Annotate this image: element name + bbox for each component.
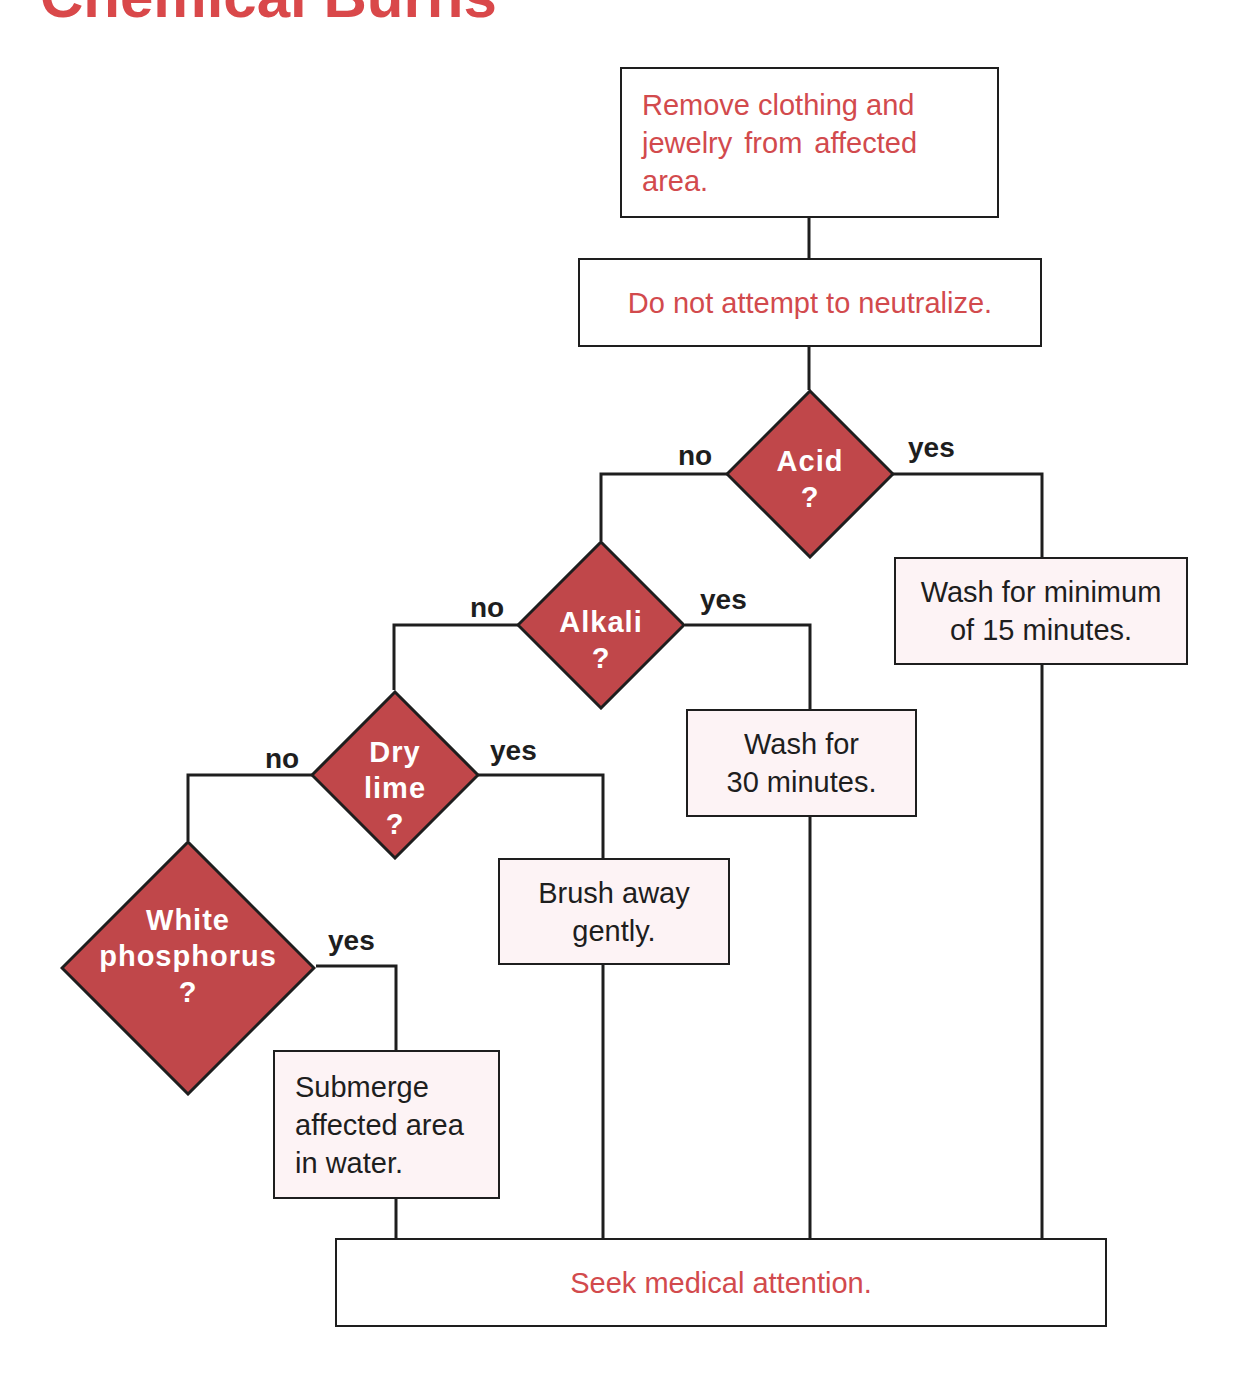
alkali-yes-label: yes [700, 584, 747, 616]
action-acid-line1: Wash for minimum [921, 573, 1162, 611]
step-remove-line2: jewelry from affected [642, 124, 917, 162]
acid-yes-label: yes [908, 432, 955, 464]
action-white-phosphorus-submerge: Submerge affected area in water. [273, 1050, 500, 1199]
action-alkali-line1: Wash for [727, 725, 877, 763]
action-wp-line3: in water. [295, 1144, 464, 1182]
action-acid-line2: of 15 minutes. [921, 611, 1162, 649]
decision-acid: Acid ? [725, 389, 895, 559]
decision-alkali-q: ? [516, 640, 686, 676]
action-wp-line1: Submerge [295, 1068, 464, 1106]
wp-yes-label: yes [328, 925, 375, 957]
step-seek-medical-attention: Seek medical attention. [335, 1238, 1107, 1327]
decision-alkali-label: Alkali [516, 604, 686, 640]
action-alkali-line2: 30 minutes. [727, 763, 877, 801]
decision-drylime-line2: lime [310, 770, 480, 806]
step-remove-line1: Remove clothing and [642, 86, 917, 124]
decision-drylime-line1: Dry [310, 734, 480, 770]
decision-alkali: Alkali ? [516, 540, 686, 710]
decision-acid-label: Acid [725, 443, 895, 479]
action-dry-lime-brush: Brush away gently. [498, 858, 730, 965]
decision-wp-line2: phosphorus [60, 938, 316, 974]
action-wp-line2: affected area [295, 1106, 464, 1144]
action-drylime-line1: Brush away [538, 874, 690, 912]
alkali-no-label: no [470, 592, 504, 624]
action-alkali-wash: Wash for 30 minutes. [686, 709, 917, 817]
decision-drylime-q: ? [310, 806, 480, 842]
action-drylime-line2: gently. [538, 912, 690, 950]
decision-wp-q: ? [60, 974, 316, 1010]
drylime-no-label: no [265, 743, 299, 775]
decision-acid-q: ? [725, 479, 895, 515]
decision-dry-lime: Dry lime ? [310, 690, 480, 860]
step-remove-line3: area. [642, 162, 917, 200]
step-remove-clothing: Remove clothing and jewelry from affecte… [620, 67, 999, 218]
step-neutralize-text: Do not attempt to neutralize. [628, 284, 992, 322]
drylime-yes-label: yes [490, 735, 537, 767]
step-do-not-neutralize: Do not attempt to neutralize. [578, 258, 1042, 347]
action-acid-wash: Wash for minimum of 15 minutes. [894, 557, 1188, 665]
acid-no-label: no [678, 440, 712, 472]
decision-wp-line1: White [60, 902, 316, 938]
step-seek-text: Seek medical attention. [570, 1264, 871, 1302]
